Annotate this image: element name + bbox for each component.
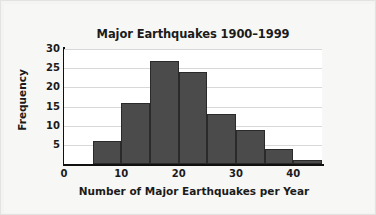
figure-canvas: Major Earthquakes 1900–1999 Frequency 51…	[4, 4, 374, 213]
figure-frame: Major Earthquakes 1900–1999 Frequency 51…	[0, 0, 376, 215]
x-tick-label: 10	[101, 168, 141, 179]
chart-title: Major Earthquakes 1900–1999	[64, 27, 322, 41]
y-tick-label: 30	[26, 44, 60, 54]
x-axis-label: Number of Major Earthquakes per Year	[44, 185, 344, 197]
y-tick-label: 10	[26, 121, 60, 131]
plot-area	[64, 49, 322, 164]
histogram-bar	[236, 130, 265, 165]
histogram-bar	[293, 160, 322, 164]
x-tick-label: 40	[273, 168, 313, 179]
histogram-bar	[150, 61, 179, 165]
histogram-bar	[265, 149, 294, 164]
x-axis-line	[63, 164, 324, 166]
histogram-bar	[179, 72, 208, 164]
y-tick-label: 20	[26, 82, 60, 92]
x-tick-label: 0	[44, 168, 84, 179]
histogram-bars	[64, 49, 322, 164]
histogram-bar	[121, 103, 150, 164]
histogram-bar	[93, 141, 122, 164]
histogram-bar	[207, 114, 236, 164]
y-tick-label: 15	[26, 102, 60, 112]
y-axis-tick-labels: 51015202530	[22, 4, 60, 215]
y-tick-label: 25	[26, 63, 60, 73]
x-tick-label: 20	[159, 168, 199, 179]
x-tick-label: 30	[216, 168, 256, 179]
y-tick-label: 5	[26, 140, 60, 150]
